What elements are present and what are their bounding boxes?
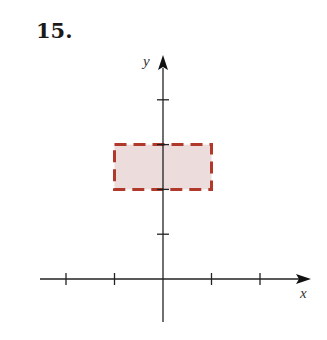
y-axis-label: y <box>141 53 150 69</box>
coordinate-plot: x y <box>0 0 327 340</box>
y-axis-arrow-icon <box>158 55 168 70</box>
x-axis-label: x <box>299 285 307 301</box>
